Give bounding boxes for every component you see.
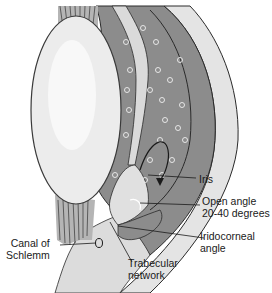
- canal-of-schlemm: [96, 239, 103, 248]
- label-iris-text: Iris: [199, 173, 213, 185]
- label-trabecular-network: Trabecular network: [128, 257, 178, 281]
- label-open-angle: Open angle 20-40 degrees: [202, 195, 270, 219]
- label-iridocorneal-line1: Iridocorneal: [200, 230, 255, 242]
- label-canal-line2: Schlemm: [6, 249, 50, 261]
- lens-highlight: [48, 40, 96, 150]
- label-iridocorneal-angle: Iridocorneal angle: [200, 230, 255, 254]
- label-canal-of-schlemm: Canal of Schlemm: [6, 237, 50, 261]
- label-iris: Iris: [199, 173, 213, 185]
- label-open-angle-line2: 20-40 degrees: [202, 207, 270, 219]
- label-iridocorneal-line2: angle: [200, 242, 255, 254]
- label-open-angle-line1: Open angle: [202, 195, 270, 207]
- label-trabecular-line2: network: [128, 269, 178, 281]
- label-canal-line1: Canal of: [6, 237, 50, 249]
- label-trabecular-line1: Trabecular: [128, 257, 178, 269]
